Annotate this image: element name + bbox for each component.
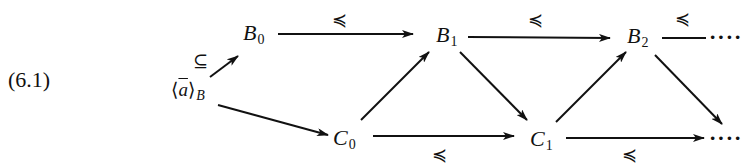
arrow-B1-to-B2 <box>468 37 610 38</box>
continuation-dots-bottom: ···· <box>709 127 742 149</box>
angle-right: ⟩ <box>188 79 195 100</box>
label-subseteq: ⊆ <box>193 52 208 70</box>
node-C0-sub: 0 <box>349 137 356 152</box>
node-C0: C0 <box>333 127 356 152</box>
arrow-C1-to-B2 <box>556 52 626 122</box>
node-C0-base: C <box>333 125 348 150</box>
node-B2-base: B <box>627 23 640 48</box>
node-C1-sub: 1 <box>546 138 553 153</box>
continuation-dots-top: ···· <box>709 26 742 48</box>
a-bar: a <box>178 79 188 100</box>
node-a-bar-B: ⟨a⟩B <box>171 80 205 103</box>
node-B0: B0 <box>243 22 264 47</box>
node-B1: B1 <box>436 24 457 49</box>
node-B1-sub: 1 <box>450 34 457 49</box>
node-C1-base: C <box>530 126 545 151</box>
arrow-C0-to-B1 <box>361 52 429 120</box>
arrow-aB-to-C0 <box>218 105 328 135</box>
node-B0-sub: 0 <box>257 32 264 47</box>
node-B1-base: B <box>436 22 449 47</box>
label-preceq-B0-B1: ≼ <box>332 11 347 29</box>
label-preceq-B1-B2: ≼ <box>528 11 543 29</box>
label-preceq-C0-C1: ≼ <box>432 146 447 164</box>
label-preceq-C1-cont: ≼ <box>622 146 637 164</box>
arrow-B1-to-C1 <box>460 52 527 120</box>
label-preceq-B2-cont: ≼ <box>675 10 690 28</box>
node-B2-sub: 2 <box>641 35 648 50</box>
node-B0-base: B <box>243 20 256 45</box>
node-C1: C1 <box>530 128 553 153</box>
arrow-B2-to-cont <box>655 55 722 124</box>
node-B2: B2 <box>627 25 648 50</box>
subscript-B: B <box>196 88 205 103</box>
arrow-aB-to-B0 <box>210 56 238 77</box>
